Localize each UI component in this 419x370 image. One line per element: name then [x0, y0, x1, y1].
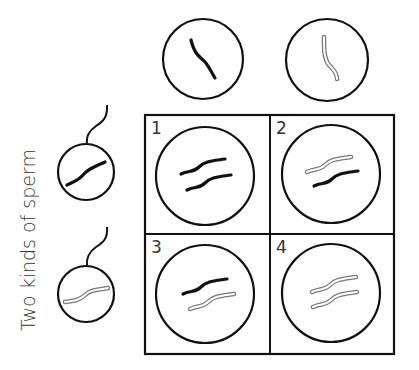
- cell-1-number: 1: [151, 118, 162, 138]
- cell-3-number: 3: [151, 237, 162, 257]
- cell-3-zygote: [156, 245, 254, 343]
- egg-dark: [163, 19, 243, 99]
- cell-2-number: 2: [276, 118, 287, 138]
- sperm-axis-label: Two kinds of sperm: [17, 149, 39, 331]
- cell-4-zygote: [282, 244, 380, 342]
- egg-light: [286, 19, 368, 101]
- cell-1-zygote: [156, 127, 254, 225]
- cell-4-number: 4: [276, 237, 287, 257]
- punnett-diagram: [0, 0, 419, 370]
- side-label-container: Two kinds of sperm: [8, 150, 48, 330]
- sperm-light: [58, 227, 114, 322]
- cell-2-zygote: [282, 125, 380, 223]
- sperm-dark: [58, 105, 114, 200]
